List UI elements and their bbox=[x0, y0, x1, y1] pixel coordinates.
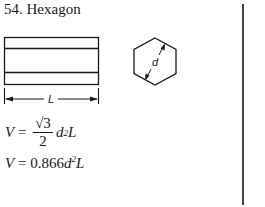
volume-formula-approx: V = 0.866d2L bbox=[5, 154, 84, 172]
eq1-L: L bbox=[68, 124, 76, 141]
length-label: L bbox=[48, 93, 54, 105]
eq2-L: L bbox=[76, 155, 84, 171]
diameter-label: d bbox=[152, 56, 159, 68]
column-divider bbox=[242, 4, 244, 205]
hexagon-bar-figure: L d bbox=[0, 0, 265, 207]
eq2-equals: = bbox=[14, 155, 30, 171]
sqrt3-over-2-fraction: √3 2 bbox=[33, 116, 53, 149]
eq1-equals: = bbox=[14, 124, 30, 141]
eq1-lhs: V bbox=[5, 124, 14, 141]
eq1-d: d bbox=[56, 124, 64, 141]
fraction-denominator: 2 bbox=[39, 133, 47, 149]
fraction-numerator: √3 bbox=[33, 116, 53, 133]
eq2-coefficient: 0.866 bbox=[30, 155, 64, 171]
side-view bbox=[5, 38, 99, 85]
eq2-lhs: V bbox=[5, 155, 14, 171]
volume-formula-exact: V = √3 2 d2L bbox=[5, 116, 76, 149]
